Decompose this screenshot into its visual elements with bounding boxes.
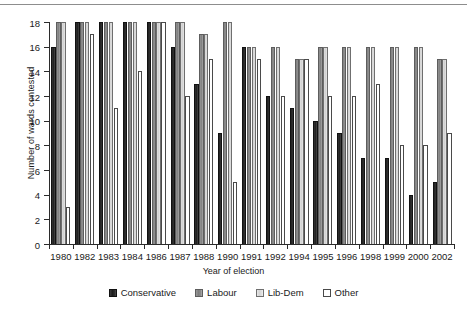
bar-labour-1991	[247, 47, 251, 244]
bar-libdem-1983	[109, 22, 113, 244]
bar-other-1990	[233, 182, 237, 244]
x-tick-mark	[120, 245, 121, 249]
x-tick-label: 1980	[50, 251, 71, 262]
y-tick-label: 16	[29, 42, 40, 53]
legend-swatch-icon	[323, 289, 331, 297]
bar-other-1987	[185, 96, 189, 244]
bar-group	[144, 22, 168, 244]
bar-other-1992	[281, 96, 285, 244]
bar-group	[430, 22, 454, 244]
x-tick-label: 1987	[169, 251, 190, 262]
bar-labour-1988	[199, 34, 203, 244]
bar-libdem-1995	[323, 47, 327, 244]
y-tick-label: 0	[35, 239, 40, 250]
plot-area	[49, 22, 454, 244]
bar-conservative-1992	[266, 96, 270, 244]
x-tick-label: 1986	[146, 251, 167, 262]
bar-conservative-1982	[75, 22, 79, 244]
y-tick-label: 12	[29, 91, 40, 102]
bar-conservative-1998	[361, 158, 365, 244]
bar-group	[311, 22, 335, 244]
bar-other-1998	[376, 84, 380, 244]
x-tick-label: 1988	[193, 251, 214, 262]
bar-other-1991	[257, 59, 261, 244]
bar-libdem-1992	[276, 47, 280, 244]
bar-group	[240, 22, 264, 244]
bar-libdem-1986	[156, 22, 160, 244]
y-tick-label: 2	[35, 214, 40, 225]
bar-labour-1987	[175, 22, 179, 244]
x-tick-label: 1992	[265, 251, 286, 262]
bar-group	[287, 22, 311, 244]
bar-group	[168, 22, 192, 244]
x-tick-mark	[73, 245, 74, 249]
x-tick-mark	[406, 245, 407, 249]
x-tick-mark	[97, 245, 98, 249]
bar-libdem-1988	[204, 34, 208, 244]
legend-swatch-icon	[109, 289, 117, 297]
bar-group	[73, 22, 97, 244]
x-tick-label: 1991	[241, 251, 262, 262]
y-tick-label: 14	[29, 66, 40, 77]
y-tick-label: 10	[29, 116, 40, 127]
y-tick-label: 18	[29, 17, 40, 28]
bar-labour-1995	[318, 47, 322, 244]
legend-item-libdem[interactable]: Lib-Dem	[256, 287, 304, 298]
x-tick-label: 1990	[217, 251, 238, 262]
bar-conservative-1990	[218, 133, 222, 244]
x-tick-mark	[359, 245, 360, 249]
bar-conservative-1987	[171, 47, 175, 244]
x-tick-mark	[240, 245, 241, 249]
x-tick-mark	[49, 245, 50, 249]
legend-swatch-icon	[195, 289, 203, 297]
bar-labour-1984	[128, 22, 132, 244]
bar-conservative-1994	[290, 108, 294, 244]
x-tick-mark	[454, 245, 455, 249]
bar-chart-figure: Number of wards contested 02468101214161…	[0, 0, 467, 320]
bar-labour-1982	[80, 22, 84, 244]
legend-item-labour[interactable]: Labour	[195, 287, 237, 298]
bar-group	[216, 22, 240, 244]
bar-conservative-1988	[194, 84, 198, 244]
top-divider-rule	[0, 4, 467, 5]
bar-other-2000	[423, 145, 427, 244]
x-tick-label: 1983	[98, 251, 119, 262]
bar-libdem-1998	[371, 47, 375, 244]
legend-label: Conservative	[121, 287, 176, 298]
bar-labour-1994	[295, 59, 299, 244]
x-axis-title: Year of election	[0, 266, 467, 276]
legend-label: Labour	[207, 287, 237, 298]
legend-item-other[interactable]: Other	[323, 287, 359, 298]
legend-item-conservative[interactable]: Conservative	[109, 287, 176, 298]
bar-other-1994	[304, 59, 308, 244]
x-tick-mark	[335, 245, 336, 249]
bar-other-1999	[400, 145, 404, 244]
bar-conservative-1995	[313, 121, 317, 244]
bar-other-2002	[447, 133, 451, 244]
x-tick-label: 1999	[384, 251, 405, 262]
bar-labour-1983	[104, 22, 108, 244]
bar-conservative-1986	[147, 22, 151, 244]
bar-other-1983	[114, 108, 118, 244]
x-tick-mark	[383, 245, 384, 249]
bar-libdem-1982	[85, 22, 89, 244]
x-tick-label: 1982	[74, 251, 95, 262]
bar-libdem-2002	[442, 59, 446, 244]
bar-libdem-2000	[419, 47, 423, 244]
bar-group	[49, 22, 73, 244]
bar-other-1980	[66, 207, 70, 244]
x-tick-label: 2000	[408, 251, 429, 262]
bar-conservative-2000	[409, 195, 413, 244]
bar-conservative-1999	[385, 158, 389, 244]
bar-other-1996	[352, 96, 356, 244]
bar-libdem-1984	[133, 22, 137, 244]
bar-labour-1986	[152, 22, 156, 244]
bar-libdem-1996	[347, 47, 351, 244]
bar-group	[263, 22, 287, 244]
bar-conservative-1983	[99, 22, 103, 244]
bar-other-1984	[138, 71, 142, 244]
x-tick-label: 1994	[289, 251, 310, 262]
bar-libdem-1990	[228, 22, 232, 244]
legend-label: Lib-Dem	[268, 287, 304, 298]
y-tick-label: 6	[35, 165, 40, 176]
